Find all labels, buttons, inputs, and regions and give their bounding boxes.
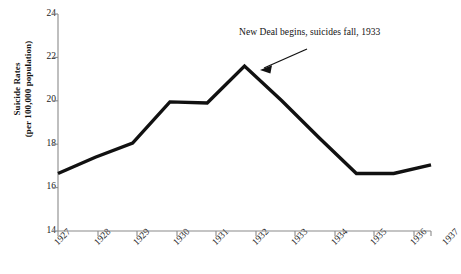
axis-lines <box>58 14 431 231</box>
x-axis-ticks <box>58 231 431 236</box>
annotation-arrow-icon <box>260 49 307 74</box>
annotation-text: New Deal begins, suicides fall, 1933 <box>239 27 380 37</box>
data-series-line <box>58 66 431 173</box>
y-axis-ticks <box>53 14 58 231</box>
